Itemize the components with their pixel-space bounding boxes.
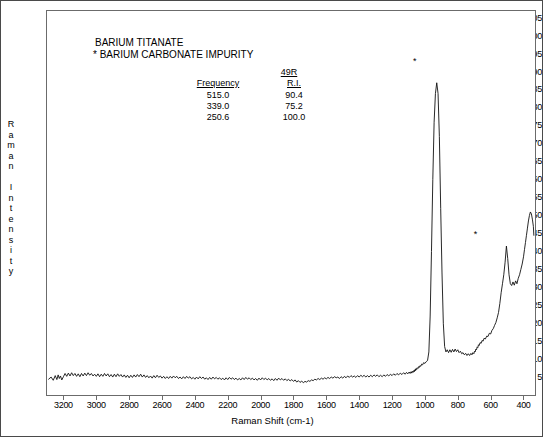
peak-table-title: 49R [175,67,365,77]
peak-intensity-cell: 75.2 [261,100,327,111]
y-axis-title-char: n [5,193,17,204]
y-axis-title-char: s [5,235,17,246]
impurity-peak-marker: * [413,57,417,66]
peak-frequency-cell: 250.6 [175,111,261,122]
y-axis-title-char: e [5,214,17,225]
y-axis-title-char [5,172,17,183]
y-axis-title-char: a [5,151,17,162]
peak-table-body: 515.090.4339.075.2250.6100.0 [175,89,327,122]
column-header-frequency: Frequency [175,77,261,89]
peak-intensity-cell: 90.4 [261,89,327,100]
peak-table-row: 250.6100.0 [175,111,327,122]
impurity-peak-marker: * [474,230,478,239]
peak-table-row: 515.090.4 [175,89,327,100]
y-axis-title-char: t [5,203,17,214]
peak-table-header-row: Frequency R.I. [175,77,327,89]
legend-barium-carbonate-impurity: * BARIUM CARBONATE IMPURITY [93,49,253,60]
y-axis-title-char: y [5,266,17,277]
y-axis-title-char: R [5,119,17,130]
peak-table: 49R Frequency R.I. 515.090.4339.075.2250… [175,67,365,122]
legend-barium-titanate: BARIUM TITANATE [95,37,183,48]
spectrum-polyline [49,83,534,383]
y-axis-title-char: m [5,140,17,151]
x-axis-title: Raman Shift (cm-1) [1,415,543,426]
x-axis-tick-label: 400 [503,401,543,410]
y-axis-title: Raman Intensity [5,119,17,277]
peak-table-grid: Frequency R.I. 515.090.4339.075.2250.610… [175,77,327,122]
y-axis-title-char: t [5,256,17,267]
y-axis-title-char: a [5,130,17,141]
y-axis-title-char: n [5,161,17,172]
peak-intensity-cell: 100.0 [261,111,327,122]
peak-frequency-cell: 339.0 [175,100,261,111]
peak-table-row: 339.075.2 [175,100,327,111]
y-axis-title-char: i [5,245,17,256]
column-header-relative-intensity: R.I. [261,77,327,89]
plot-area: BARIUM TITANATE * BARIUM CARBONATE IMPUR… [46,10,536,396]
y-axis-title-char: n [5,224,17,235]
raman-spectrum-figure: Raman Intensity 510152025303540455055606… [0,0,543,437]
peak-frequency-cell: 515.0 [175,89,261,100]
y-axis-title-char: I [5,182,17,193]
